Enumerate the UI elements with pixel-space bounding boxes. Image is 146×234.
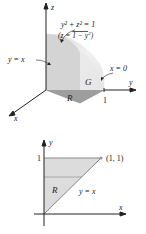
- y-axis-arrow-icon: [130, 88, 136, 92]
- plane-yx-label: y = x: [7, 55, 25, 64]
- x-axis-label: x: [13, 114, 18, 123]
- x-axis: [12, 90, 46, 114]
- y-axis-label-2d: y: [48, 138, 53, 147]
- z-axis-arrow-icon: [44, 3, 48, 9]
- y-tick-label-2d: 1: [37, 154, 41, 163]
- diagram-canvas: z y x y² + z² = 1 (z = 1 − y2) y = x x =…: [0, 0, 146, 234]
- y-axis-2d-arrow-icon: [42, 140, 46, 146]
- z-axis-label: z: [50, 3, 55, 12]
- x-axis-2d-arrow-icon: [120, 212, 126, 216]
- solid-g-label: G: [85, 77, 92, 87]
- region-r-label-2d: R: [51, 185, 58, 195]
- point-1-1: [99, 156, 102, 159]
- plane-x0-label: x = 0: [109, 64, 127, 73]
- region-r-label-3d: R: [66, 93, 73, 103]
- x-axis-label-2d: x: [118, 203, 123, 212]
- point-label-1-1: (1, 1): [106, 154, 124, 163]
- line-yx-label-2d: y = x: [78, 187, 96, 196]
- y-axis-label: y: [128, 78, 133, 87]
- solid-figure-3d: [46, 34, 104, 103]
- cylinder-equation-label: y² + z² = 1: [60, 20, 95, 29]
- y-tick-label-3d: 1: [103, 96, 107, 105]
- cylinder-explicit-label: (z = 1 − y2): [58, 31, 94, 40]
